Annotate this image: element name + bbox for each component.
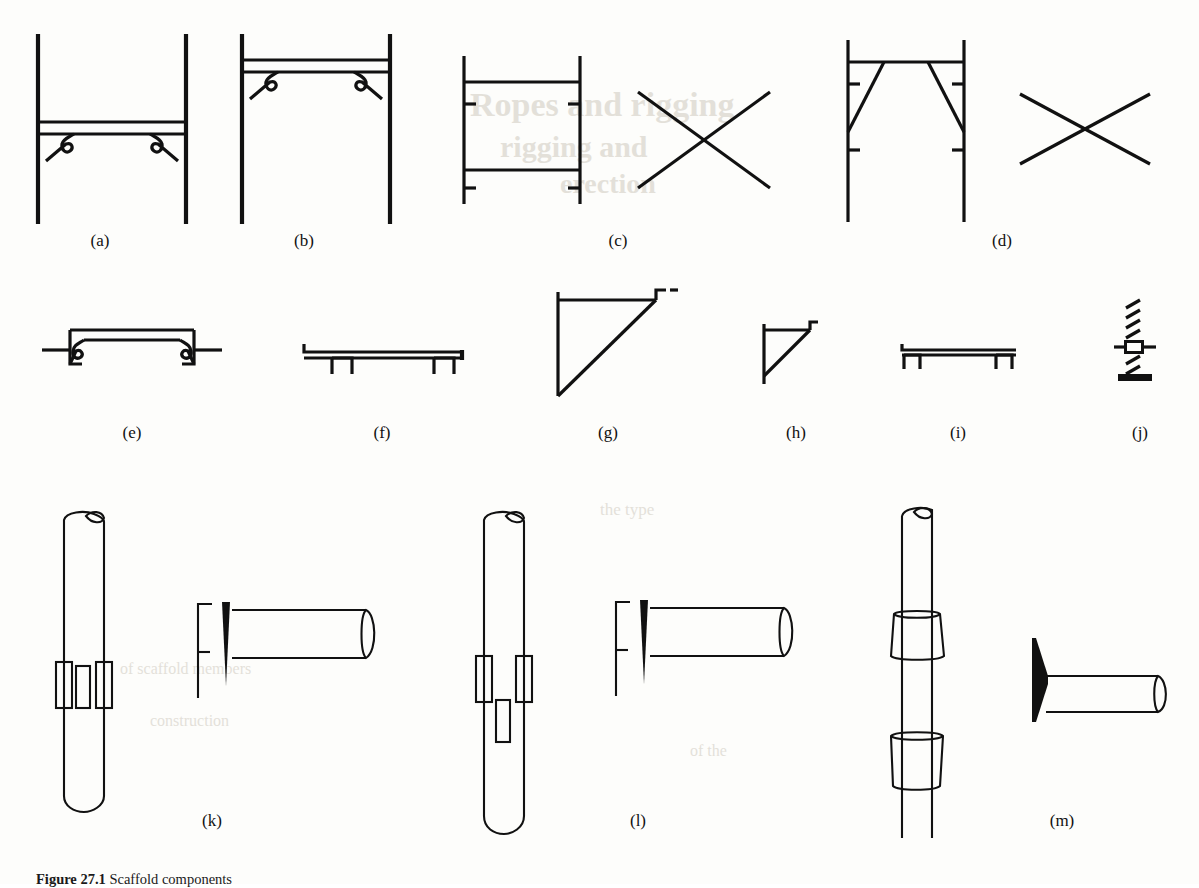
panel-label-j: (j) [1110,424,1170,441]
panel-m-ledger-blade-end [1026,620,1186,740]
panel-label-k: (k) [182,812,242,829]
panel-label-e: (e) [102,424,162,441]
bearer-top-edge [304,344,462,352]
base-plate [1118,374,1152,381]
hook-claw-left [70,340,84,364]
v-brace-right [928,62,964,132]
lower-cup-collar [891,732,943,790]
lower-cup-rim [891,736,943,740]
wedge-pin [222,602,230,686]
panel-g-large-bracket [548,288,678,403]
bracket-diagonal-strut [764,330,810,376]
claw-right [434,358,454,374]
figure-caption: Figure 27.1 Scaffold components [36,871,232,888]
panel-b-frame-top-transom [232,34,407,224]
panel-c-frame-with-x-brace [452,48,782,213]
panel-k-ledger-wedge-end [190,590,390,710]
panel-label-b: (b) [274,232,334,249]
hook-connector-right [354,72,382,99]
panel-k-standard-three-lugs [48,506,128,816]
bracket-diagonal-strut [558,300,656,396]
threaded-rod-lower [1126,356,1140,374]
panel-h-small-bracket [756,318,828,390]
bracket-end-hook [810,322,818,330]
panel-e-transom-with-hooks [42,318,222,378]
panel-label-m: (m) [1032,812,1092,829]
panel-label-d: (d) [972,232,1032,249]
panel-a-frame-mid-transom [28,34,203,224]
panel-label-h: (h) [766,424,826,441]
wedge-pin [640,600,648,684]
panel-label-l: (l) [608,812,668,829]
claw-left [904,355,920,369]
ledger-end-ellipse [1154,676,1166,712]
panel-j-base-jack [1106,296,1168,386]
bracket-end-hook [656,290,666,300]
claw-left [332,358,352,374]
upper-cup-rim [894,614,940,618]
panel-l-ledger-wedge-end [608,588,808,708]
nut-body-hollow [1127,343,1141,351]
panel-f-long-bearer [302,336,467,378]
panel-l-standard-offset-lugs [468,506,548,836]
panel-d-frame-with-v-bracing [832,32,1162,227]
panel-label-g: (g) [578,424,638,441]
figure-caption-number: Figure 27.1 [36,871,106,887]
v-brace-left [848,62,884,132]
hook-connector-left [250,72,278,99]
panel-label-f: (f) [352,424,412,441]
hook-connector-right [150,134,178,161]
tube-top-ellipse [914,508,932,518]
ledger-end-ellipse [780,608,793,656]
lug-center [76,666,90,708]
tube-body [484,512,524,834]
figure-caption-text: Scaffold components [109,871,232,887]
ledger-end-ellipse [362,610,375,658]
threaded-rod-upper [1126,300,1140,338]
hook-connector-left [46,134,74,161]
lug-center-lower [496,700,510,742]
panel-m-cuplock-standard [874,498,964,848]
panel-i-short-bearer [898,338,1020,374]
claw-right [996,355,1012,369]
bearer-top-edge [902,344,1016,350]
hook-claw-right [180,340,194,364]
panel-label-a: (a) [70,232,130,249]
panel-label-i: (i) [928,424,988,441]
blade-end-plate [1032,638,1048,722]
panel-label-c: (c) [588,232,648,249]
